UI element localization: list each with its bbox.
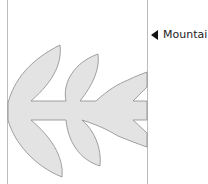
leaf-shape xyxy=(8,45,147,177)
map-label-text: Mountai xyxy=(163,28,207,41)
left-arrow-icon xyxy=(151,30,158,40)
map-label-mountain[interactable]: Mountai xyxy=(151,28,207,41)
